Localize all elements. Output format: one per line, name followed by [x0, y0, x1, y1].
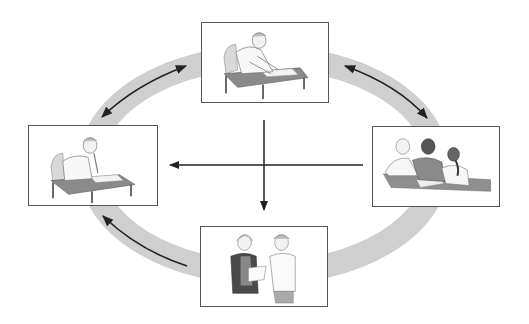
group-discussion-illustration	[373, 127, 499, 206]
panel-group-discussion	[372, 126, 500, 207]
panel-thinking	[28, 125, 158, 206]
panel-writing	[201, 22, 329, 103]
person-writing-illustration	[202, 23, 328, 102]
teacher-conference-illustration	[201, 227, 327, 306]
person-thinking-illustration	[29, 126, 157, 205]
panel-teacher-conference	[200, 226, 328, 307]
